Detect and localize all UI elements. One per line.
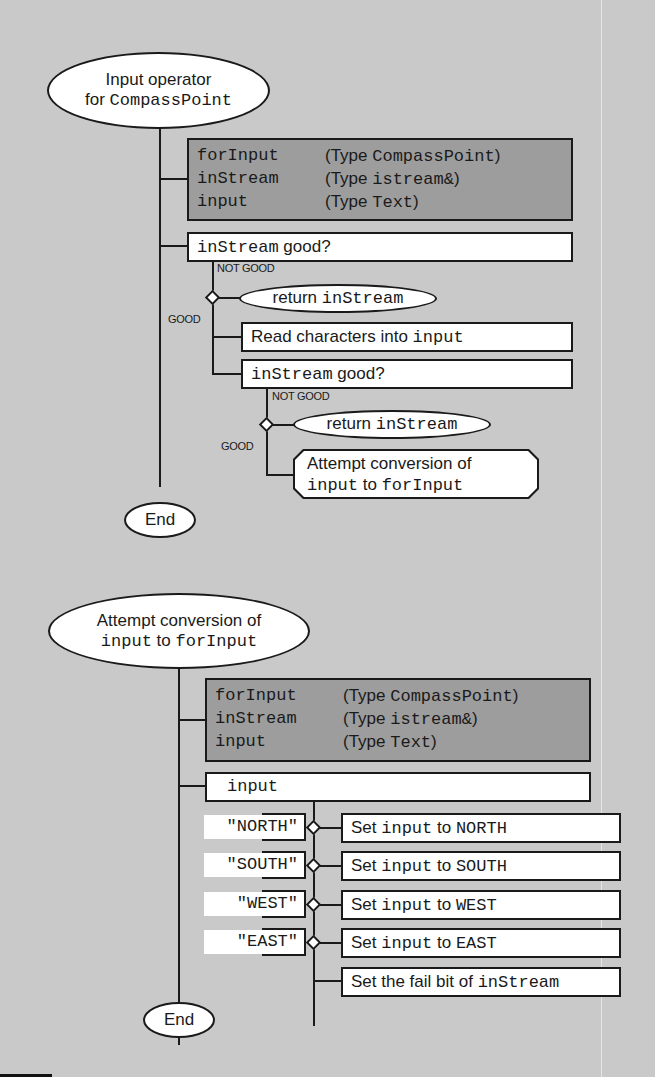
subprocess-box-attempt-conversion: Attempt conversion of input to forInput: [293, 449, 539, 499]
connector-line: [159, 245, 187, 247]
connector-line: [159, 178, 187, 180]
decision-box-stream-good-2: inStream good?: [241, 359, 573, 389]
connector-line: [212, 336, 242, 338]
connector-line: [320, 865, 342, 867]
connector-line: [320, 904, 342, 906]
case-diamond-icon: [306, 935, 322, 951]
connector-line: [219, 297, 241, 299]
return-oval-1: return inStream: [239, 284, 437, 313]
decision-diamond-icon: [205, 290, 221, 306]
not-good-label: NOT GOOD: [217, 262, 274, 274]
connector-line: [320, 827, 342, 829]
return-oval-2: return inStream: [293, 410, 491, 439]
branch-line: [212, 260, 214, 375]
action-box-set-south: Set input to SOUTH: [341, 851, 621, 881]
case-bracket: [262, 813, 306, 841]
connector-line: [273, 424, 295, 426]
variable-row: input(Type Text): [215, 731, 581, 754]
case-bracket: [262, 851, 306, 879]
action-box-set-north: Set input to NORTH: [341, 813, 621, 843]
connector-line: [178, 785, 206, 787]
end-oval: End: [143, 1002, 215, 1038]
start-line1: Input operator: [106, 70, 212, 90]
case-bracket: [262, 928, 306, 956]
decision-diamond-icon: [259, 417, 275, 433]
connector-line: [212, 373, 242, 375]
action-box-set-east: Set input to EAST: [341, 928, 621, 958]
variable-row: forInput(Type CompassPoint): [215, 685, 581, 708]
variables-box: forInput(Type CompassPoint) inStream(Typ…: [187, 138, 573, 221]
end-oval: End: [124, 502, 196, 538]
variable-row: forInput(Type CompassPoint): [197, 145, 563, 168]
not-good-label: NOT GOOD: [272, 390, 329, 402]
variable-row: inStream(Type istream&): [197, 168, 563, 191]
connector-line: [320, 942, 342, 944]
decision-box-stream-good-1: inStream good?: [187, 232, 573, 262]
case-diamond-icon: [306, 897, 322, 913]
case-bracket: [262, 890, 306, 918]
action-box-set-west: Set input to WEST: [341, 890, 621, 920]
start-oval: Input operator for CompassPoint: [47, 52, 270, 129]
start-oval: Attempt conversion of input to forInput: [48, 593, 310, 669]
good-label: GOOD: [221, 440, 253, 452]
process-box-read-characters: Read characters into input: [241, 322, 573, 352]
variable-row: inStream(Type istream&): [215, 708, 581, 731]
switch-box-input: input: [205, 772, 591, 802]
main-spine-line: [178, 665, 180, 1045]
action-box-set-fail-bit: Set the fail bit of inStream: [341, 967, 621, 997]
case-diamond-icon: [306, 820, 322, 836]
connector-line: [313, 980, 342, 982]
start-line2: for CompassPoint: [85, 90, 232, 111]
good-label: GOOD: [168, 313, 200, 325]
connector-line: [178, 719, 206, 721]
case-diamond-icon: [306, 858, 322, 874]
variables-box: forInput(Type CompassPoint) inStream(Typ…: [205, 678, 591, 762]
variable-row: input(Type Text): [197, 191, 563, 214]
connector-line: [266, 474, 294, 476]
